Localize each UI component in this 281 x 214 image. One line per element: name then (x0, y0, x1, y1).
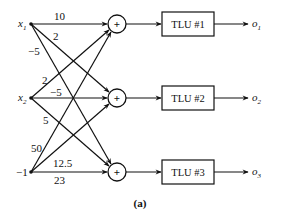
tlu-box-2: TLU #2 (162, 86, 214, 110)
weight-x2-s3: 5 (43, 114, 49, 126)
tlu-label-1: TLU #1 (171, 19, 205, 30)
edge-bias-s1 (31, 32, 111, 172)
summer-2: + (108, 89, 126, 107)
figure-caption: (a) (134, 197, 147, 210)
weight-x1-s1: 10 (54, 10, 66, 22)
weight-bias-s2: 12.5 (53, 157, 73, 169)
tlu-box-1: TLU #1 (162, 12, 214, 36)
edge-x2-s1 (31, 30, 109, 98)
input-label-x1: x1 (17, 17, 26, 32)
tlu-network-diagram: x1 x2 −1 10 2 −5 2 −5 5 50 12.5 23 + + +… (0, 0, 281, 214)
output-label-o2: o2 (252, 91, 262, 106)
weight-x2-s2: −5 (50, 86, 62, 98)
input-label-x2: x2 (17, 91, 27, 106)
tlu-label-2: TLU #2 (171, 93, 205, 104)
plus-icon: + (114, 92, 120, 104)
edge-x1-s3 (31, 24, 111, 164)
plus-icon: + (114, 18, 120, 30)
output-label-o1: o1 (252, 17, 261, 32)
tlu-label-3: TLU #3 (171, 167, 205, 178)
weight-x1-s3: −5 (28, 45, 40, 57)
summer-3: + (108, 163, 126, 181)
input-label-bias: −1 (16, 166, 28, 178)
weight-bias-s1: 50 (31, 142, 43, 154)
tlu-box-3: TLU #3 (162, 160, 214, 184)
summer-1: + (108, 15, 126, 33)
plus-icon: + (114, 166, 120, 178)
weight-x2-s1: 2 (42, 74, 48, 86)
weight-x1-s2: 2 (53, 30, 59, 42)
weight-bias-s3: 23 (54, 174, 66, 186)
output-label-o3: o3 (252, 165, 262, 180)
edge-x2-s3 (31, 98, 109, 166)
